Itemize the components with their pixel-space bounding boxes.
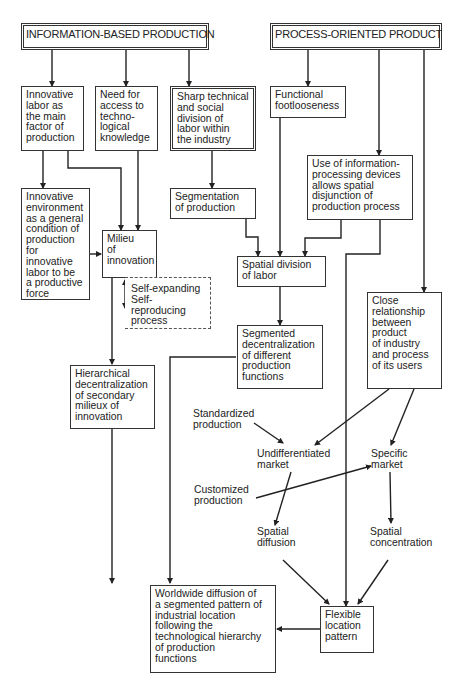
functional-footlooseness-box: Functional footlooseness (270, 86, 346, 118)
standardized-production-label: Standardized production (193, 409, 254, 431)
self-process-box: Self-expanding Self-reproducing process (125, 277, 211, 329)
segmentation-box: Segmentation of production (170, 188, 256, 219)
info-devices-box: Use of information- processing devices a… (307, 155, 413, 220)
innovative-environment-box: Innovative environment as a general cond… (21, 188, 90, 300)
info-based-production-title: INFORMATION-BASED PRODUCTION (21, 23, 209, 50)
spatial-division-box: Spatial division of labor (237, 256, 326, 287)
spatial-concentration-label: Spatial concentration (370, 527, 432, 549)
undifferentiated-market-label: Undifferentiated market (257, 449, 330, 471)
need-access-box: Need for access to techno- logical knowl… (95, 86, 158, 151)
milieu-box: Milieu of innovation (102, 230, 157, 278)
spatial-diffusion-label: Spatial diffusion (257, 527, 296, 549)
worldwide-diffusion-box: Worldwide diffusion of a segmented patte… (150, 585, 276, 673)
flexible-location-box: Flexible location pattern (320, 606, 374, 653)
innovative-labor-box: Innovative labor as the main factor of p… (21, 86, 84, 151)
process-oriented-product-title: PROCESS-ORIENTED PRODUCT (270, 23, 442, 50)
close-relationship-box: Close relationship between product of in… (367, 292, 442, 389)
segmented-decentralization-box: Segmented decentralization of different … (237, 325, 323, 389)
specific-market-label: Specific market (371, 449, 407, 471)
sharp-division-box: Sharp technical and social division of l… (170, 86, 256, 151)
customized-production-label: Customized production (194, 485, 249, 507)
hierarchical-decentralization-box: Hierarchical decentralization of seconda… (70, 365, 155, 429)
